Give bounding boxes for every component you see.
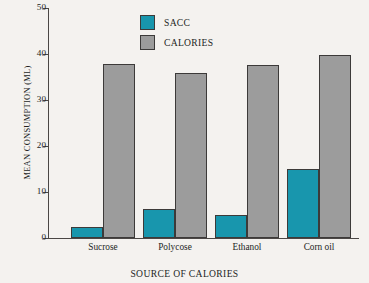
plot-area: 50 40 30 20 10 0 Sucrose Polycose [48, 8, 359, 239]
legend-label-calories: CALORIES [164, 37, 213, 48]
x-tick-label-corn-oil: Corn oil [287, 242, 351, 252]
legend-swatch-calories [140, 35, 155, 50]
bar-corn-oil-sacc [287, 169, 319, 238]
y-tick-label-40: 40 [6, 48, 46, 58]
x-tick-label-sucrose: Sucrose [71, 242, 135, 252]
y-tick-label-0: 0 [6, 232, 46, 242]
bar-ethanol-calories [247, 65, 279, 238]
bar-polycose-sacc [143, 209, 175, 238]
y-tick-label-50: 50 [6, 2, 46, 12]
bar-sucrose-sacc [71, 227, 103, 239]
legend-label-sacc: SACC [164, 17, 190, 28]
bar-corn-oil-calories [319, 55, 351, 238]
y-tick-label-30: 30 [6, 94, 46, 104]
x-tick-label-polycose: Polycose [143, 242, 207, 252]
bar-sucrose-calories [103, 64, 135, 238]
x-axis-line [48, 238, 359, 239]
y-axis-title: MEAN CONSUMPTION (ML) [23, 38, 32, 208]
y-tick-label-20: 20 [6, 140, 46, 150]
x-axis-title: SOURCE OF CALORIES [0, 268, 369, 279]
legend-swatch-sacc [140, 15, 155, 30]
bar-ethanol-sacc [215, 215, 247, 238]
chart-legend: SACC CALORIES [140, 12, 213, 52]
bar-chart: MEAN CONSUMPTION (ML) 50 40 30 20 10 0 S… [0, 0, 369, 283]
legend-item-calories: CALORIES [140, 32, 213, 52]
y-tick-label-10: 10 [6, 186, 46, 196]
bar-polycose-calories [175, 73, 207, 238]
x-tick-label-ethanol: Ethanol [215, 242, 279, 252]
legend-item-sacc: SACC [140, 12, 213, 32]
